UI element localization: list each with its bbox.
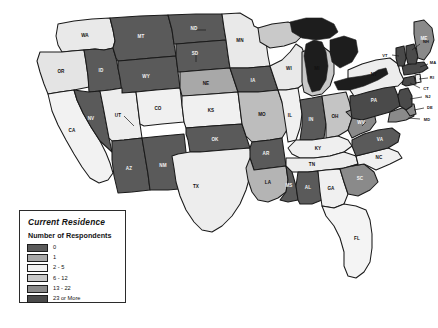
legend-subtitle: Number of Respondents xyxy=(28,231,119,240)
legend-swatch xyxy=(27,254,48,262)
label-NH: NH xyxy=(423,39,429,44)
legend-row: 6 - 12 xyxy=(27,274,119,284)
label-WA: WA xyxy=(81,33,89,38)
label-MT: MT xyxy=(138,34,145,39)
state-RI[interactable] xyxy=(415,74,421,83)
label-ID: ID xyxy=(99,68,104,73)
state-TX[interactable] xyxy=(172,148,252,232)
map-legend: Current Residence Number of Respondents … xyxy=(19,210,126,303)
legend-label: 23 or More xyxy=(53,296,81,302)
label-VA: VA xyxy=(377,137,384,142)
label-AL: AL xyxy=(305,185,311,190)
legend-swatch xyxy=(27,285,48,293)
label-OR: OR xyxy=(57,69,65,74)
label-KY: KY xyxy=(315,146,322,151)
label-CT: CT xyxy=(423,86,429,91)
legend-row: 23 or More xyxy=(27,294,119,304)
legend-swatch xyxy=(27,274,48,282)
label-DE: DE xyxy=(427,105,433,110)
label-MI: MI xyxy=(314,66,319,71)
label-MN: MN xyxy=(236,38,244,43)
label-WY: WY xyxy=(142,74,150,79)
legend-row: 2 - 5 xyxy=(27,263,119,273)
label-NE: NE xyxy=(203,81,210,86)
label-MA: MA xyxy=(430,60,437,65)
label-VT: VT xyxy=(382,53,388,58)
label-OK: OK xyxy=(211,137,219,142)
label-ND: ND xyxy=(191,26,198,31)
label-IA: IA xyxy=(251,78,256,83)
label-TX: TX xyxy=(193,184,200,189)
legend-label: 0 xyxy=(53,245,56,251)
legend-row: 0 xyxy=(27,243,119,253)
label-WV: WV xyxy=(357,120,365,125)
label-NV: NV xyxy=(88,116,95,121)
label-GA: GA xyxy=(327,186,335,191)
label-KS: KS xyxy=(208,108,215,113)
legend-row: 1 xyxy=(27,253,119,263)
legend-label: 13 - 22 xyxy=(53,286,71,292)
label-LA: LA xyxy=(265,180,272,185)
label-PA: PA xyxy=(371,98,378,103)
legend-label: 1 xyxy=(53,255,56,261)
label-OH: OH xyxy=(331,114,339,119)
label-SC: SC xyxy=(357,176,364,181)
label-CA: CA xyxy=(69,128,76,133)
legend-title: Current Residence xyxy=(28,217,119,227)
state-CT[interactable] xyxy=(402,76,416,86)
label-SD: SD xyxy=(192,51,199,56)
label-AR: AR xyxy=(263,151,270,156)
legend-rows: 012 - 56 - 1213 - 2223 or More xyxy=(27,243,119,304)
label-MO: MO xyxy=(258,112,266,117)
label-IL: IL xyxy=(288,113,292,118)
legend-swatch xyxy=(27,264,48,272)
state-NJ[interactable] xyxy=(398,88,412,110)
label-IN: IN xyxy=(309,117,314,122)
legend-swatch xyxy=(27,295,48,303)
legend-swatch xyxy=(27,244,48,252)
label-RI: RI xyxy=(430,75,434,80)
label-NM: NM xyxy=(159,163,166,168)
label-WI: WI xyxy=(286,66,292,71)
label-FL: FL xyxy=(354,236,360,241)
state-FL[interactable] xyxy=(322,204,372,278)
label-NJ: NJ xyxy=(425,94,430,99)
label-NY: NY xyxy=(371,72,378,77)
legend-label: 2 - 5 xyxy=(53,265,64,271)
choropleth-map: WA OR CA ID NV MT WY UT AZ CO NM ND SD N… xyxy=(0,0,438,328)
label-UT: UT xyxy=(115,113,121,118)
label-CO: CO xyxy=(154,106,161,111)
label-NC: NC xyxy=(376,155,383,160)
label-AZ: AZ xyxy=(126,166,132,171)
label-MS: MS xyxy=(285,183,292,188)
label-TN: TN xyxy=(309,162,316,167)
label-MD: MD xyxy=(424,117,431,122)
legend-row: 13 - 22 xyxy=(27,284,119,294)
state-SD[interactable] xyxy=(176,40,230,72)
legend-label: 6 - 12 xyxy=(53,276,68,282)
leader-md xyxy=(408,118,420,119)
